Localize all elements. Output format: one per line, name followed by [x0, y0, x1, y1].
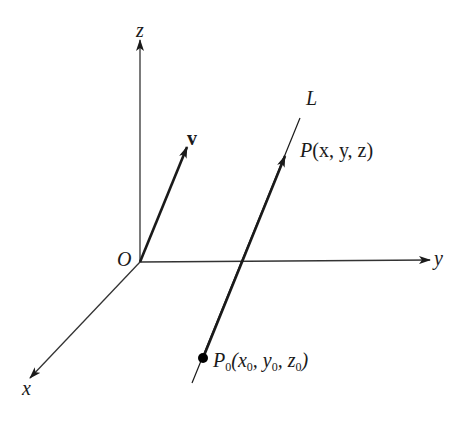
direction-vector-v [140, 147, 187, 262]
point-P-name: P [300, 139, 312, 161]
p0-x: (x [231, 349, 247, 371]
point-P-label: P(x, y, z) [300, 140, 373, 160]
y-axis-label: y [434, 248, 443, 268]
point-P0-label: P0(x0, y0, z0) [213, 350, 308, 373]
p0-z: , z [278, 349, 296, 371]
point-P0-dot [198, 353, 208, 363]
line-L-label: L [306, 88, 317, 108]
vector-v-label: v [187, 128, 197, 148]
y-axis [140, 260, 430, 262]
point-P-coords: (x, y, z) [312, 139, 373, 161]
p0-close: ) [301, 349, 308, 371]
line-in-space-diagram: z y x O v L P(x, y, z) P0(x0, y0, z0) [0, 0, 456, 425]
x-axis [30, 262, 140, 378]
x-axis-label: x [22, 378, 31, 398]
point-P0-name: P [213, 349, 225, 371]
origin-label: O [117, 249, 131, 269]
p0-y: , y [253, 349, 272, 371]
z-axis-label: z [136, 20, 144, 40]
vector-P0-to-P [203, 156, 285, 358]
